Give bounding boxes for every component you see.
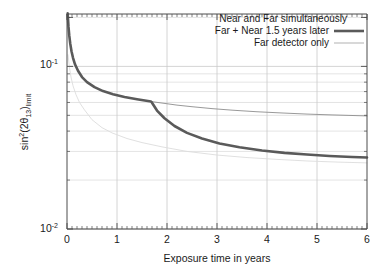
x-tick-label: 2 xyxy=(164,233,170,245)
x-tick-label: 0 xyxy=(64,233,70,245)
legend-label-2: Far detector only xyxy=(254,37,329,48)
legend-label-1: Far + Near 1.5 years later xyxy=(215,25,330,36)
legend-label-0: Near and Far simultaneously xyxy=(219,13,347,24)
y-axis-title: sin2(2θ13)limit xyxy=(18,94,32,150)
y-tick-label-bottom: 10-2 xyxy=(40,222,58,234)
x-tick-label: 5 xyxy=(314,233,320,245)
x-tick-label: 4 xyxy=(264,233,270,245)
x-tick-label: 3 xyxy=(214,233,220,245)
chart-figure: 0123456 10-1 10-2 sin2(2θ13)limit Exposu… xyxy=(0,0,389,271)
y-tick-label-top: 10-1 xyxy=(40,58,58,70)
svg-text:sin2(2θ13)limit: sin2(2θ13)limit xyxy=(18,94,32,150)
x-tick-label: 1 xyxy=(114,233,120,245)
x-tick-labels: 0123456 xyxy=(64,233,370,245)
x-axis-title: Exposure time in years xyxy=(164,252,271,264)
x-tick-label: 6 xyxy=(364,233,370,245)
chart-svg: 0123456 10-1 10-2 sin2(2θ13)limit Exposu… xyxy=(0,0,389,271)
